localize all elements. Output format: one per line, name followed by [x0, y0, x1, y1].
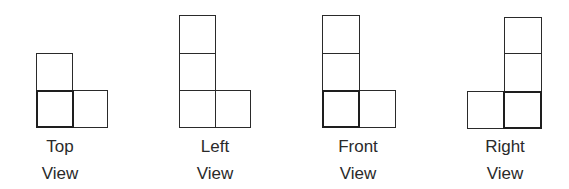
right-view: Right View — [0, 0, 569, 189]
right-view-label-line1: Right — [460, 134, 550, 160]
right-view-square — [504, 17, 542, 54]
right-view-square — [504, 53, 542, 92]
front-view-square-highlighted — [322, 90, 360, 128]
top-view-square-highlighted — [36, 90, 74, 128]
right-view-square — [467, 91, 505, 129]
right-view-square-highlighted — [503, 91, 542, 129]
right-view-label-line2: View — [460, 161, 550, 187]
